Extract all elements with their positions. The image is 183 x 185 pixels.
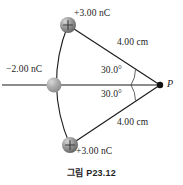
figure-container: +3.00 nC −2.00 nC +3.00 nC 4.00 cm 4.00 … bbox=[0, 0, 183, 185]
label-top-distance: 4.00 cm bbox=[117, 37, 148, 47]
label-angle-bottom: 30.0° bbox=[101, 89, 122, 99]
field-point-dot bbox=[157, 82, 163, 88]
upper-radius-line bbox=[68, 25, 160, 85]
figure-caption: 그림 P23.12 bbox=[0, 166, 183, 179]
label-bottom-charge: +3.00 nC bbox=[76, 146, 112, 156]
angle-arc-top bbox=[131, 70, 136, 86]
label-angle-top: 30.0° bbox=[101, 65, 122, 75]
charge-diagram bbox=[0, 0, 183, 165]
label-bottom-distance: 4.00 cm bbox=[117, 117, 148, 127]
label-left-charge: −2.00 nC bbox=[6, 64, 42, 74]
label-top-charge: +3.00 nC bbox=[74, 8, 110, 18]
sphere-center-charge bbox=[47, 78, 62, 93]
angle-arc-bottom bbox=[131, 85, 136, 101]
label-point-p: P bbox=[167, 78, 173, 89]
